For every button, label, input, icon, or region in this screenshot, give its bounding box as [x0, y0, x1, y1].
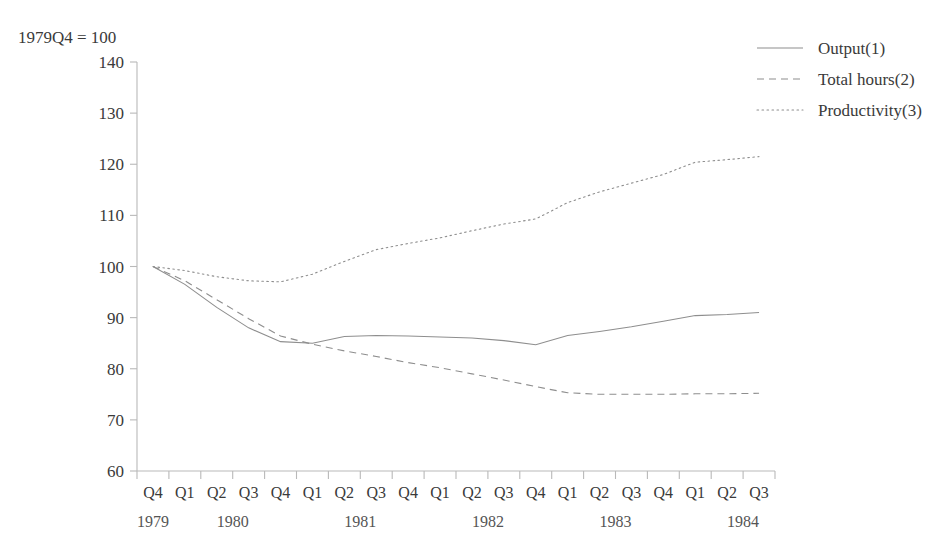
x-tick-label: Q2 — [207, 484, 227, 501]
x-tick-label: Q4 — [143, 484, 163, 501]
x-tick-label: Q3 — [366, 484, 386, 501]
chart-legend: Output(1)Total hours(2)Productivity(3) — [757, 39, 922, 120]
x-year-label: 1981 — [344, 513, 376, 530]
x-year-label: 1984 — [727, 513, 759, 530]
x-tick-label: Q1 — [685, 484, 705, 501]
series-line-1 — [153, 267, 759, 345]
x-year-label: 1979 — [137, 513, 169, 530]
y-tick-label: 80 — [107, 360, 124, 379]
x-tick-label: Q3 — [494, 484, 514, 501]
legend-label-1: Output(1) — [818, 39, 885, 58]
series-line-2 — [153, 267, 759, 395]
x-year-label: 1980 — [217, 513, 249, 530]
legend-label-3: Productivity(3) — [818, 101, 922, 120]
x-tick-label: Q1 — [558, 484, 578, 501]
y-tick-label: 110 — [99, 206, 124, 225]
y-tick-label: 90 — [107, 309, 124, 328]
chart-page: · · 1979Q4 = 100 60708090100110120130140… — [0, 0, 932, 545]
x-tick-label: Q4 — [526, 484, 546, 501]
x-tick-label: Q1 — [175, 484, 195, 501]
x-tick-label: Q2 — [462, 484, 482, 501]
y-tick-label: 120 — [99, 155, 125, 174]
y-tick-label: 100 — [99, 258, 125, 277]
x-year-label: 1982 — [472, 513, 504, 530]
y-tick-label: 70 — [107, 411, 124, 430]
x-tick-label: Q2 — [335, 484, 355, 501]
x-tick-label: Q1 — [430, 484, 450, 501]
x-tick-label: Q3 — [749, 484, 769, 501]
y-tick-label: 130 — [99, 104, 125, 123]
y-tick-label: 60 — [107, 462, 124, 481]
x-tick-label: Q3 — [622, 484, 642, 501]
x-tick-label: Q4 — [654, 484, 674, 501]
series-lines — [153, 157, 759, 395]
line-chart: 60708090100110120130140 Q4Q1Q2Q3Q4Q1Q2Q3… — [0, 0, 932, 545]
x-tick-label: Q4 — [271, 484, 291, 501]
x-axis: Q4Q1Q2Q3Q4Q1Q2Q3Q4Q1Q2Q3Q4Q1Q2Q3Q4Q1Q2Q3… — [137, 471, 775, 530]
series-line-3 — [153, 157, 759, 282]
x-tick-label: Q3 — [239, 484, 259, 501]
x-tick-label: Q2 — [717, 484, 737, 501]
y-axis: 60708090100110120130140 — [99, 53, 138, 481]
legend-label-2: Total hours(2) — [818, 70, 915, 89]
x-tick-label: Q4 — [398, 484, 418, 501]
x-tick-label: Q2 — [590, 484, 610, 501]
x-tick-label: Q1 — [303, 484, 323, 501]
y-tick-label: 140 — [99, 53, 125, 72]
x-year-label: 1983 — [600, 513, 632, 530]
